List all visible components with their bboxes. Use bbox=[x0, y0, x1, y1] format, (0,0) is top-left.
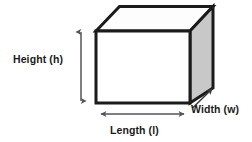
length-label: Length (l) bbox=[110, 125, 159, 136]
prism-body bbox=[96, 7, 213, 104]
width-label: Width (w) bbox=[191, 104, 239, 115]
prism-illustration bbox=[0, 0, 252, 142]
prism-front-face bbox=[96, 31, 190, 103]
height-label: Height (h) bbox=[13, 54, 63, 65]
prism-diagram: Height (h) Length (l) Width (w) bbox=[0, 0, 252, 142]
